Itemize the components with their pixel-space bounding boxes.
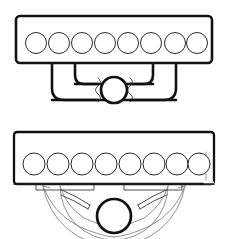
hole xyxy=(166,153,188,175)
hole xyxy=(23,153,45,175)
hole xyxy=(118,33,139,54)
hole xyxy=(47,153,69,175)
bottom-center-hub xyxy=(97,199,131,233)
hole xyxy=(141,33,162,54)
hole xyxy=(49,33,70,54)
hole xyxy=(165,33,186,54)
hole xyxy=(72,33,93,54)
hole xyxy=(188,153,210,175)
technical-drawing-svg xyxy=(0,0,227,239)
hole xyxy=(71,153,93,175)
hole xyxy=(95,153,117,175)
top-center-hub xyxy=(101,77,127,103)
hole xyxy=(187,33,208,54)
hole xyxy=(95,33,116,54)
hole xyxy=(26,33,47,54)
hole xyxy=(119,153,141,175)
hole xyxy=(143,153,165,175)
drawing-canvas xyxy=(0,0,227,239)
